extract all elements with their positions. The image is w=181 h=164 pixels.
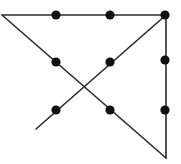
point-lower-right-diagonal (105, 105, 114, 114)
figure-canvas (0, 0, 181, 164)
point-right-edge-lower (160, 105, 169, 114)
point-upper-left-diagonal (51, 57, 60, 66)
point-top-middle-right (105, 10, 114, 19)
point-right-edge-upper (160, 55, 169, 64)
segments-group (2, 15, 166, 158)
line-figure-svg (0, 0, 181, 164)
point-top-right-corner (160, 10, 169, 19)
point-upper-right-diagonal (105, 57, 114, 66)
point-lower-left-diagonal (51, 105, 60, 114)
point-top-middle-left (51, 10, 60, 19)
